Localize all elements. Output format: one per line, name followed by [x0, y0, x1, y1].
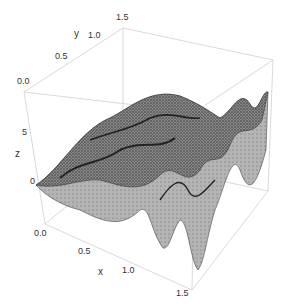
x-tick-1.0: 1.0 — [122, 265, 135, 275]
surface — [36, 92, 268, 270]
y-tick-0.5: 0.5 — [55, 51, 68, 61]
y-axis-label: y — [74, 28, 79, 39]
y-tick-1.5: 1.5 — [116, 12, 129, 22]
z-tick-0: 0 — [30, 176, 35, 186]
z-axis-label: z — [15, 148, 20, 159]
x-axis-label: x — [98, 266, 103, 277]
surface-plot — [0, 0, 281, 308]
x-tick-0.5: 0.5 — [78, 246, 91, 256]
x-tick-1.5: 1.5 — [176, 288, 189, 298]
z-tick-5: 5 — [22, 127, 27, 137]
y-tick-1.0: 1.0 — [88, 30, 101, 40]
y-tick-0.0: 0.0 — [17, 76, 30, 86]
x-tick-0.0: 0.0 — [34, 228, 47, 238]
